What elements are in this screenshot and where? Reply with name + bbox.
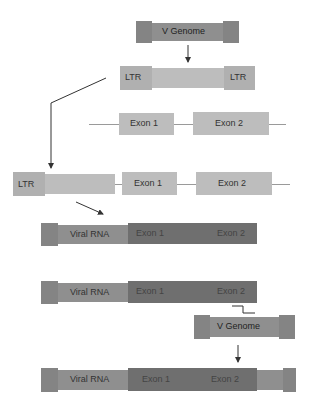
arrows-overlay: [0, 0, 309, 395]
arrow-provirus-to-integration: [51, 78, 106, 168]
connector-step: [232, 306, 255, 313]
arrow-to-transcript: [76, 202, 103, 214]
